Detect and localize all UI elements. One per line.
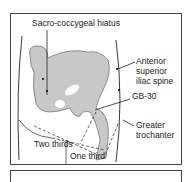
label-sacro-coccygeal-hiatus: Sacro-coccygeal hiatus (32, 19, 120, 29)
label-two-thirds: Two thirds (34, 140, 73, 150)
label-one-third: One third (70, 152, 105, 162)
label-asis-line3: iliac spine (136, 77, 173, 87)
label-greater-trochanter-line2: trochanter (136, 131, 174, 141)
label-gb30: GB-30 (132, 92, 157, 102)
